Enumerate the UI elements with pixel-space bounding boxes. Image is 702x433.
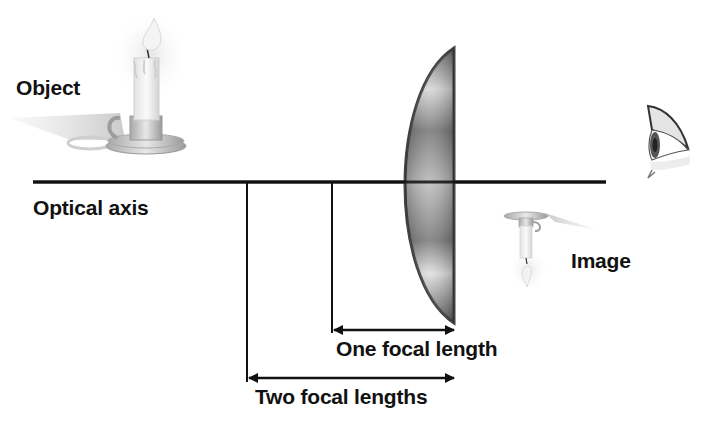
image-label: Image	[571, 249, 631, 273]
one-focal-length-label: One focal length	[336, 337, 497, 361]
plano-convex-lens-icon	[405, 48, 454, 323]
object-label: Object	[16, 76, 80, 100]
lens-diagram: Object Optical axis Image One focal leng…	[0, 0, 702, 433]
eye-icon	[648, 106, 690, 178]
two-focal-lengths-label: Two focal lengths	[255, 385, 427, 409]
optical-axis-label: Optical axis	[33, 196, 149, 220]
